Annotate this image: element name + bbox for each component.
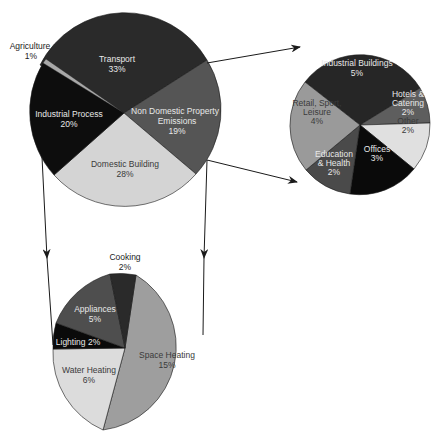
label-non-domestic-2: Emissions [158, 116, 197, 126]
label-industrial-process: Industrial Process [35, 109, 103, 119]
label-cooking: Cooking [109, 252, 140, 262]
domestic-pie: Space Heating 15% Water Heating 6% Light… [53, 252, 195, 430]
arrow-right-continuation [203, 258, 204, 335]
arrow-to-domestic-left [42, 157, 47, 258]
arrow-to-domestic-right [204, 160, 207, 258]
label-water-heating: Water Heating [62, 365, 116, 375]
label-non-domestic-pct: 19% [168, 126, 185, 136]
label-retail-pct: 4% [311, 116, 324, 126]
label-water-heating-pct: 6% [83, 375, 96, 385]
label-appliances: Appliances [74, 304, 116, 314]
label-cooking-pct: 2% [119, 262, 132, 272]
arrow-to-non-domestic-top [207, 47, 300, 63]
label-space-heating-pct: 15% [158, 360, 175, 370]
label-domestic-building: Domestic Building [91, 159, 159, 169]
label-industrial-buildings-pct: 5% [351, 68, 364, 78]
non-domestic-pie: Industrial Buildings 5% Hotels & Caterin… [290, 55, 430, 195]
label-other-pct: 2% [402, 125, 415, 135]
label-lighting: Lighting 2% [56, 337, 101, 347]
pie-chart-diagram: Transport 33% Non Domestic Property Emis… [0, 0, 445, 437]
label-agriculture-pct: 1% [25, 51, 38, 61]
label-non-domestic: Non Domestic Property [131, 106, 220, 116]
label-domestic-building-pct: 28% [116, 169, 133, 179]
label-transport: Transport [99, 54, 136, 64]
label-space-heating: Space Heating [139, 350, 195, 360]
label-appliances-pct: 5% [89, 314, 102, 324]
label-transport-pct: 33% [108, 64, 125, 74]
label-industrial-buildings: Industrial Buildings [321, 58, 392, 68]
arrow-to-non-domestic-bottom [207, 160, 297, 182]
label-education-pct: 2% [328, 167, 341, 177]
label-agriculture: Agriculture [10, 41, 51, 51]
label-offices-pct: 3% [371, 153, 384, 163]
label-industrial-process-pct: 20% [60, 119, 77, 129]
main-pie: Transport 33% Non Domestic Property Emis… [10, 13, 221, 207]
arrow-left-continuation [47, 258, 53, 345]
